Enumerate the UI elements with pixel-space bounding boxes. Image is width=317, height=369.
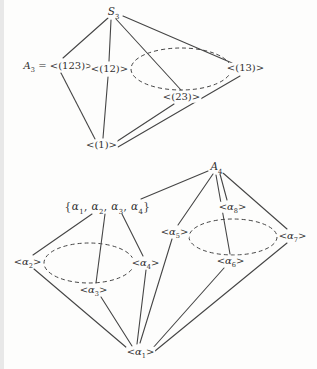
- edge-gen-alpha4-gen-alpha1: [137, 270, 146, 344]
- edge-a4-v4: [141, 171, 208, 199]
- edge-gen-23-gen-1: [116, 104, 174, 142]
- edge-gen-13-gen-1: [118, 76, 240, 147]
- edge-s3-gen-13: [123, 16, 232, 63]
- node-gen-12: <(12)>: [90, 64, 129, 75]
- node-a4: A4: [210, 161, 224, 172]
- edge-a3-123-gen-1: [61, 73, 95, 139]
- node-gen-alpha4: <α4>: [131, 258, 161, 269]
- subgroup-lattice-figure: S3A3 = <(123)><(12)><(13)><(23)><(1)>A4{…: [4, 0, 317, 369]
- edge-s3-gen-12: [109, 20, 111, 61]
- edge-gen-12-gen-1: [103, 77, 108, 138]
- node-gen-alpha7: <α7>: [278, 231, 308, 242]
- ellipse-order2-conjugacy-class: [44, 243, 134, 283]
- node-gen-alpha8: <α8>: [218, 202, 248, 213]
- node-gen-13: <(13)>: [226, 63, 265, 74]
- node-a3-123: A3 = <(123)>: [23, 61, 95, 72]
- node-gen-alpha6: <α6>: [216, 256, 246, 267]
- node-gen-1: <(1)>: [85, 140, 118, 151]
- edge-v4-gen-alpha4: [122, 214, 143, 256]
- edge-a4-gen-alpha8: [220, 174, 227, 200]
- ellipse-order3-conjugacy-class: [189, 219, 277, 255]
- edge-s3-gen-23: [116, 19, 181, 90]
- edge-gen-alpha6-gen-alpha1: [152, 268, 224, 349]
- edge-v4-gen-alpha3: [96, 214, 105, 283]
- edge-s3-a3-123: [63, 18, 108, 58]
- ellipse-transpositions-conjugacy-class: [131, 48, 231, 90]
- node-gen-alpha2: <α2>: [13, 257, 43, 268]
- node-s3: S3: [107, 6, 121, 17]
- node-v4: {α1, α2, α3, α4}: [64, 201, 152, 212]
- edge-v4-gen-alpha2: [33, 214, 92, 255]
- edge-gen-alpha2-gen-alpha1: [34, 269, 127, 348]
- node-gen-alpha3: <α3>: [79, 285, 109, 296]
- node-gen-alpha5: <α5>: [160, 227, 190, 238]
- edge-gen-alpha5-gen-alpha1: [140, 239, 172, 343]
- lattice-canvas: [4, 0, 317, 369]
- node-gen-alpha1: <α1>: [126, 347, 156, 358]
- node-gen-23: <(23)>: [162, 92, 201, 103]
